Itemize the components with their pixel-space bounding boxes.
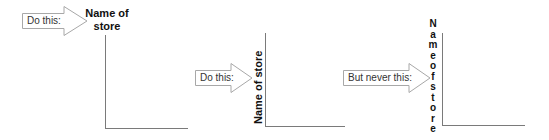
letter: m (427, 40, 439, 51)
y-axis (105, 35, 106, 128)
axis-title-stacked-letters: N a m e o f s t o r e (427, 19, 439, 135)
axis-title-line-1: Name of (82, 7, 132, 20)
y-axis (265, 33, 266, 126)
x-axis (442, 125, 525, 126)
arrow-label: Do this: (200, 73, 234, 83)
y-axis (442, 33, 443, 126)
x-axis (265, 126, 345, 127)
letter: o (427, 61, 439, 72)
axis-title-rotated: Name of store (252, 51, 264, 124)
arrow-label: Do this: (27, 16, 61, 26)
arrow-callout-2: Do this: (195, 63, 253, 93)
x-axis (105, 128, 188, 129)
arrow-callout-1: Do this: (22, 6, 88, 36)
axis-title-line-2: store (82, 20, 132, 33)
letter: s (427, 82, 439, 93)
letter: o (427, 103, 439, 114)
letter: N (427, 19, 439, 30)
axis-title-horizontal: Name of store (82, 7, 132, 33)
arrow-label: But never this: (348, 73, 412, 83)
arrow-callout-3: But never this: (343, 63, 431, 93)
letter: e (427, 124, 439, 135)
